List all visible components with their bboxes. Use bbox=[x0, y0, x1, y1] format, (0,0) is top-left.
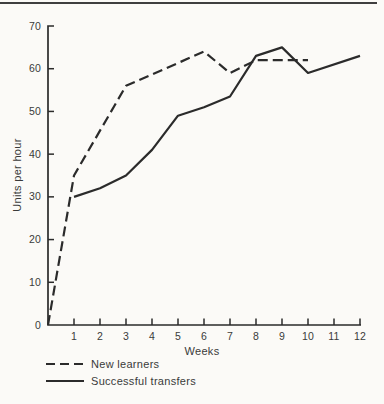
y-tick-label: 40 bbox=[0, 148, 41, 160]
y-tick-label: 60 bbox=[0, 62, 41, 74]
solid-line-sample bbox=[46, 376, 84, 386]
x-tick-label: 5 bbox=[167, 330, 189, 342]
dashed-line-sample bbox=[46, 359, 84, 369]
learning-curve-figure: Units per hour Weeks New learners Succes… bbox=[0, 0, 384, 404]
y-tick-label: 10 bbox=[0, 276, 41, 288]
line-chart bbox=[0, 0, 384, 404]
x-tick-label: 4 bbox=[141, 330, 163, 342]
legend-label-new-learners: New learners bbox=[91, 358, 159, 370]
legend-item-new-learners: New learners bbox=[46, 358, 159, 370]
y-tick-label: 0 bbox=[0, 319, 41, 331]
x-tick-label: 9 bbox=[271, 330, 293, 342]
legend-item-successful-transfers: Successful transfers bbox=[46, 375, 196, 387]
legend-label-successful-transfers: Successful transfers bbox=[91, 375, 196, 387]
x-tick-label: 1 bbox=[63, 330, 85, 342]
x-tick-label: 10 bbox=[297, 330, 319, 342]
x-tick-label: 6 bbox=[193, 330, 215, 342]
y-tick-label: 50 bbox=[0, 105, 41, 117]
y-tick-label: 30 bbox=[0, 190, 41, 202]
x-tick-label: 12 bbox=[349, 330, 371, 342]
x-tick-label: 7 bbox=[219, 330, 241, 342]
x-tick-label: 11 bbox=[323, 330, 345, 342]
x-axis-title: Weeks bbox=[122, 345, 282, 357]
x-tick-label: 3 bbox=[115, 330, 137, 342]
y-tick-label: 70 bbox=[0, 20, 41, 32]
x-tick-label: 8 bbox=[245, 330, 267, 342]
y-tick-label: 20 bbox=[0, 233, 41, 245]
x-tick-label: 2 bbox=[89, 330, 111, 342]
